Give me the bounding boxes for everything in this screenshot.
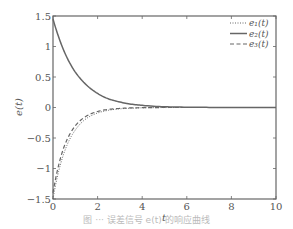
legend-label-e1t: e₁(t) [249,18,269,28]
series-e1t-line [53,108,276,200]
series-e3t-line [53,108,276,193]
y-tick-label: −1 [36,163,51,174]
legend-label-e2t: e₂(t) [249,29,269,39]
y-tick-label: −1.5 [27,194,51,205]
legend: e₁(t)e₂(t)e₃(t) [230,18,269,49]
legend-label-e3t: e₃(t) [249,39,269,49]
y-axis-label: e(t) [13,98,24,116]
y-tick-label: 0.5 [35,72,51,83]
x-tick-label: 2 [94,201,100,212]
x-tick-label: 6 [184,201,190,212]
y-tick-label: 1.5 [35,11,51,22]
y-tick-label: 0 [45,102,51,113]
series-e2t-line [53,19,276,107]
y-tick-label: 1 [45,41,51,52]
x-tick-label: 4 [139,201,145,212]
axes-layer: 02468101.510.50−0.5−1−1.5 [27,11,283,213]
series-layer [53,19,276,199]
x-tick-label: 8 [228,201,234,212]
figure-caption: 图 ··· 误差信号 e(t) 的响应曲线 [0,213,293,226]
y-tick-label: −0.5 [27,133,51,144]
x-tick-label: 10 [270,201,283,212]
line-chart: 02468101.510.50−0.5−1−1.5 e₁(t)e₂(t)e₃(t… [0,0,293,229]
